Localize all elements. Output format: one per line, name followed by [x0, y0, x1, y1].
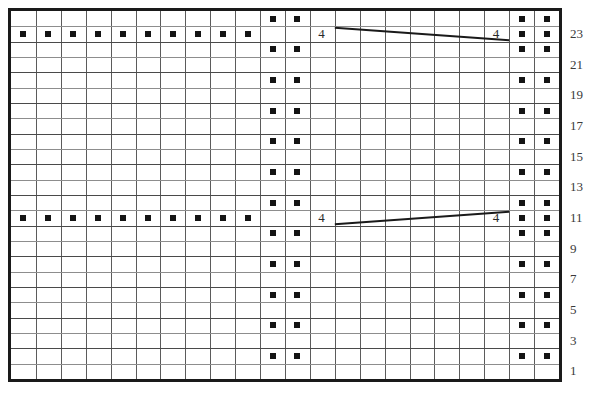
stitch-symbol-filled-square — [269, 107, 277, 115]
stitch-symbol-filled-square — [44, 30, 52, 38]
stitch-symbol-filled-square — [144, 214, 152, 222]
stitch-symbol-filled-square — [269, 260, 277, 268]
stitch-symbol-filled-square — [543, 214, 551, 222]
stitch-symbol-filled-square — [194, 214, 202, 222]
stitch-symbol-filled-square — [269, 45, 277, 53]
stitch-symbol-filled-square — [543, 137, 551, 145]
row-number-label: 21 — [570, 58, 583, 71]
gridline-horizontal — [11, 226, 559, 227]
stitch-symbol-filled-square — [269, 291, 277, 299]
stitch-symbol-filled-square — [69, 30, 77, 38]
stitch-symbol-filled-square — [518, 107, 526, 115]
stitch-symbol-filled-square — [293, 321, 301, 329]
row-number-label: 9 — [570, 242, 577, 255]
stitch-symbol-filled-square — [543, 291, 551, 299]
stitch-symbol-filled-square — [219, 30, 227, 38]
stitch-symbol-filled-square — [69, 214, 77, 222]
gridline-horizontal — [11, 333, 559, 334]
cable-number-right: 4 — [493, 27, 500, 40]
cable-number-left: 4 — [318, 211, 325, 224]
gridline-horizontal — [11, 302, 559, 303]
stitch-symbol-filled-square — [169, 30, 177, 38]
stitch-symbol-filled-square — [244, 30, 252, 38]
row-number-label: 1 — [570, 364, 577, 377]
cable-number-right: 4 — [493, 211, 500, 224]
gridline-horizontal — [11, 256, 559, 257]
stitch-symbol-filled-square — [543, 76, 551, 84]
stitch-symbol-filled-square — [293, 15, 301, 23]
stitch-symbol-filled-square — [543, 352, 551, 360]
gridline-horizontal — [11, 287, 559, 288]
cable-number-left: 4 — [318, 27, 325, 40]
stitch-symbol-filled-square — [543, 321, 551, 329]
stitch-symbol-filled-square — [219, 214, 227, 222]
stitch-symbol-filled-square — [293, 352, 301, 360]
stitch-symbol-filled-square — [543, 107, 551, 115]
stitch-symbol-filled-square — [194, 30, 202, 38]
stitch-symbol-filled-square — [518, 352, 526, 360]
gridline-horizontal — [11, 195, 559, 196]
stitch-symbol-filled-square — [293, 291, 301, 299]
gridline-horizontal — [11, 72, 559, 73]
gridline-horizontal — [11, 103, 559, 104]
row-number-label: 7 — [570, 272, 577, 285]
stitch-symbol-filled-square — [269, 137, 277, 145]
stitch-symbol-filled-square — [518, 291, 526, 299]
row-number-label: 23 — [570, 27, 583, 40]
row-number-label: 17 — [570, 119, 583, 132]
stitch-symbol-filled-square — [269, 199, 277, 207]
stitch-symbol-filled-square — [119, 30, 127, 38]
stitch-symbol-filled-square — [119, 214, 127, 222]
row-number-label: 15 — [570, 150, 583, 163]
stitch-symbol-filled-square — [293, 199, 301, 207]
stitch-symbol-filled-square — [543, 30, 551, 38]
stitch-symbol-filled-square — [269, 76, 277, 84]
gridline-horizontal — [11, 348, 559, 349]
stitch-symbol-filled-square — [518, 214, 526, 222]
gridline-horizontal — [11, 57, 559, 58]
stitch-symbol-filled-square — [94, 30, 102, 38]
stitch-symbol-filled-square — [269, 15, 277, 23]
stitch-symbol-filled-square — [269, 352, 277, 360]
stitch-symbol-filled-square — [518, 137, 526, 145]
gridline-horizontal — [11, 42, 559, 43]
gridline-horizontal — [11, 272, 559, 273]
stitch-symbol-filled-square — [293, 76, 301, 84]
stitch-symbol-filled-square — [543, 45, 551, 53]
gridline-horizontal — [11, 149, 559, 150]
gridline-horizontal — [11, 364, 559, 365]
stitch-symbol-filled-square — [94, 214, 102, 222]
stitch-symbol-filled-square — [293, 137, 301, 145]
stitch-symbol-filled-square — [169, 214, 177, 222]
gridline-horizontal — [11, 26, 559, 27]
stitch-symbol-filled-square — [518, 260, 526, 268]
stitch-symbol-filled-square — [543, 260, 551, 268]
gridline-horizontal — [11, 210, 559, 211]
row-number-label: 13 — [570, 180, 583, 193]
stitch-symbol-filled-square — [293, 229, 301, 237]
row-number-label: 11 — [570, 211, 583, 224]
stitch-symbol-filled-square — [293, 45, 301, 53]
chart-grid-frame: 4444 — [8, 8, 562, 382]
stitch-chart: 4444 2321191715131197531 — [0, 0, 598, 400]
row-number-label: 3 — [570, 334, 577, 347]
stitch-symbol-filled-square — [44, 214, 52, 222]
gridline-horizontal — [11, 88, 559, 89]
gridline-horizontal — [11, 241, 559, 242]
stitch-symbol-filled-square — [269, 168, 277, 176]
stitch-symbol-filled-square — [543, 229, 551, 237]
stitch-symbol-filled-square — [518, 168, 526, 176]
stitch-symbol-filled-square — [518, 45, 526, 53]
stitch-symbol-filled-square — [293, 260, 301, 268]
row-number-label: 19 — [570, 88, 583, 101]
gridline-horizontal — [11, 318, 559, 319]
stitch-symbol-filled-square — [518, 229, 526, 237]
gridline-horizontal — [11, 164, 559, 165]
row-number-label: 5 — [570, 303, 577, 316]
stitch-symbol-filled-square — [518, 30, 526, 38]
stitch-symbol-filled-square — [144, 30, 152, 38]
stitch-symbol-filled-square — [518, 321, 526, 329]
stitch-symbol-filled-square — [269, 229, 277, 237]
gridline-horizontal — [11, 180, 559, 181]
stitch-symbol-filled-square — [269, 321, 277, 329]
